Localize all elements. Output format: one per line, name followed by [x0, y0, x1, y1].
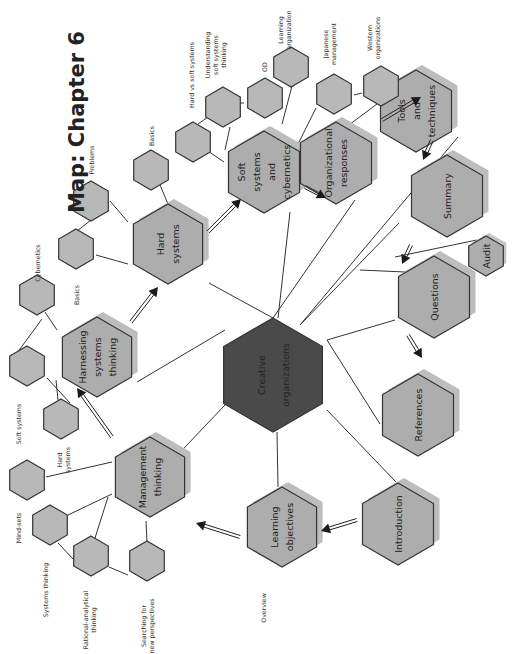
subtopic-basics[interactable]	[134, 150, 169, 190]
connector-line	[273, 200, 355, 318]
chapter-map-diagram: HardsystemsHarnessingsystemsthinkingMana…	[0, 0, 513, 654]
hexagon-shape	[44, 399, 79, 439]
connector-line	[96, 255, 128, 264]
connector-line	[146, 521, 147, 542]
page-title: Map: Chapter 6	[65, 31, 89, 213]
hexagon-shape	[248, 78, 283, 118]
arrowhead-icon	[422, 150, 431, 160]
arrowhead-icon	[231, 199, 241, 209]
connector-line	[327, 320, 395, 340]
connector-line	[77, 220, 91, 231]
node-label: Hard vs soft systems	[188, 42, 196, 108]
arrow-hard-to-soft	[207, 199, 241, 233]
connector-line	[300, 223, 399, 325]
subtopic-basics[interactable]	[59, 229, 94, 269]
hexagon-shape	[74, 536, 109, 576]
node-creative-organizations[interactable]: Creativeorganizations	[224, 318, 323, 432]
arrowhead-icon	[196, 521, 206, 531]
arrow-learning-to-management	[196, 521, 240, 538]
connector-line	[225, 127, 230, 150]
connector-line	[95, 497, 108, 538]
subtopic-soft-systems[interactable]	[10, 346, 45, 386]
subtopic-rational-analytical-thinking[interactable]	[74, 536, 109, 576]
node-label: OD	[261, 62, 268, 72]
node-label: Cybernetics	[34, 244, 42, 281]
node-label: Summary	[442, 173, 453, 219]
subtopic-mind-sets[interactable]	[10, 460, 45, 500]
arrow-questions-to-references	[407, 334, 422, 358]
hexagon-shape	[130, 541, 165, 581]
node-label: Rational-analyticalthinking	[82, 590, 98, 649]
node-label: Systems thinking	[42, 563, 50, 617]
hexagon-shape	[176, 122, 211, 162]
subtopic-understanding-soft-systems-thinking[interactable]	[206, 87, 241, 127]
connector-line	[327, 340, 380, 424]
subtopic-learning-organization[interactable]	[274, 47, 309, 87]
overview-label: Overview	[260, 593, 267, 623]
subtopic-systems-thinking[interactable]	[33, 505, 68, 545]
connector-line	[208, 151, 224, 162]
node-label: Understandingsoft systemsthinking	[204, 32, 228, 78]
connector-line	[109, 567, 128, 575]
node-label: Westernorganizations	[366, 17, 382, 59]
node-label: Audit	[481, 243, 492, 268]
subtopic-searching-for-new-perspectives[interactable]	[130, 541, 165, 581]
node-label: Hardsystems	[56, 447, 72, 473]
hexagon-shape	[224, 318, 323, 432]
arrow-introduction-to-learning	[321, 519, 357, 534]
connector-line	[47, 378, 70, 403]
hexagon-shape	[317, 74, 352, 114]
node-label: Harnessingsystemsthinking	[77, 330, 118, 383]
connector-line	[137, 330, 225, 382]
node-label: Mind-sets	[15, 513, 22, 543]
subtopic-od[interactable]	[248, 78, 283, 118]
connector-line	[160, 185, 168, 204]
hexagon-shape	[33, 505, 68, 545]
hexagon-shape	[134, 150, 169, 190]
node-label: Soft systems	[15, 404, 23, 444]
node-label: Basics	[148, 126, 155, 146]
connector-line	[282, 86, 292, 124]
connector-line	[58, 543, 74, 560]
node-label: Questions	[429, 273, 440, 320]
node-label: Japanesemanagement	[322, 22, 338, 65]
node-label: Basics	[73, 285, 80, 305]
node-label: Learningorganization	[277, 10, 293, 49]
connector-line	[354, 93, 362, 95]
connector-line	[209, 283, 273, 318]
connector-line	[110, 201, 128, 222]
node-label: Introduction	[393, 495, 404, 553]
subtopic-hard-systems[interactable]	[44, 399, 79, 439]
hexagon-shape	[10, 460, 45, 500]
subtopic-japanese-management[interactable]	[317, 74, 352, 114]
arrow-harnessing-to-hard	[130, 287, 158, 323]
connector-line	[277, 432, 278, 487]
hexagon-shape	[274, 47, 309, 87]
node-label: Searching fornew perspectives	[140, 598, 156, 653]
arrowhead-icon	[401, 254, 410, 264]
hexagon-shape	[59, 229, 94, 269]
hexagon-shape	[206, 87, 241, 127]
node-label: References	[413, 389, 424, 442]
subtopic-hard-vs-soft-systems[interactable]	[176, 122, 211, 162]
connector-line	[45, 312, 57, 330]
hexagon-shape	[10, 346, 45, 386]
